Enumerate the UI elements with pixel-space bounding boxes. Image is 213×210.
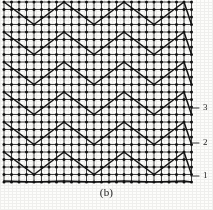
lattice-node bbox=[138, 68, 141, 71]
lattice-node bbox=[85, 143, 88, 146]
lattice-node bbox=[78, 166, 81, 169]
lattice-node bbox=[18, 38, 21, 41]
lattice-node bbox=[18, 166, 21, 169]
lattice-node bbox=[168, 173, 171, 176]
lattice-node bbox=[3, 8, 6, 11]
lattice-node bbox=[93, 16, 96, 19]
grid-lines bbox=[4, 2, 192, 182]
lattice-node bbox=[190, 76, 193, 79]
lattice-node bbox=[190, 1, 193, 4]
lattice-node bbox=[160, 181, 163, 184]
lattice-node bbox=[145, 91, 148, 94]
lattice-node bbox=[33, 76, 36, 79]
lattice-node bbox=[3, 121, 6, 124]
lattice-node bbox=[168, 181, 171, 184]
lattice-node bbox=[123, 1, 126, 4]
lattice-node bbox=[183, 83, 186, 86]
lattice-node bbox=[138, 31, 141, 34]
lattice-node bbox=[93, 121, 96, 124]
lattice-node bbox=[190, 38, 193, 41]
lattice-node bbox=[123, 61, 126, 64]
lattice-node bbox=[115, 151, 118, 154]
lattice-node bbox=[183, 38, 186, 41]
lattice-node bbox=[100, 8, 103, 11]
lattice-node bbox=[55, 113, 58, 116]
lattice-node bbox=[10, 8, 13, 11]
lattice-node bbox=[160, 31, 163, 34]
lattice-node bbox=[130, 121, 133, 124]
lattice-node bbox=[63, 113, 66, 116]
lattice-node bbox=[40, 106, 43, 109]
lattice-node bbox=[123, 136, 126, 139]
lattice-node bbox=[138, 23, 141, 26]
lattice-node bbox=[123, 91, 126, 94]
lattice-node bbox=[18, 113, 21, 116]
lattice-node bbox=[85, 91, 88, 94]
lattice-node bbox=[130, 151, 133, 154]
lattice-node bbox=[183, 1, 186, 4]
lattice-node bbox=[183, 113, 186, 116]
lattice-node bbox=[100, 68, 103, 71]
lattice-node bbox=[18, 31, 21, 34]
lattice-node bbox=[78, 23, 81, 26]
lattice-node bbox=[168, 53, 171, 56]
lattice-node bbox=[175, 83, 178, 86]
annotation-label-3: 3 bbox=[203, 102, 208, 112]
lattice-node bbox=[138, 143, 141, 146]
lattice-node bbox=[70, 166, 73, 169]
lattice-node bbox=[25, 91, 28, 94]
lattice-node bbox=[55, 61, 58, 64]
lattice-node bbox=[168, 8, 171, 11]
lattice-node bbox=[108, 38, 111, 41]
lattice-node bbox=[70, 158, 73, 161]
lattice-node bbox=[153, 53, 156, 56]
lattice-node bbox=[175, 46, 178, 49]
lattice-node bbox=[55, 143, 58, 146]
lattice-node bbox=[123, 113, 126, 116]
lattice-node bbox=[85, 136, 88, 139]
lattice-node bbox=[138, 151, 141, 154]
lattice-node bbox=[63, 173, 66, 176]
lattice-node bbox=[190, 23, 193, 26]
lattice-node bbox=[70, 121, 73, 124]
lattice-node bbox=[145, 143, 148, 146]
lattice-node bbox=[3, 68, 6, 71]
lattice-node bbox=[123, 121, 126, 124]
lattice-node bbox=[130, 61, 133, 64]
lattice-node bbox=[115, 1, 118, 4]
lattice-node bbox=[145, 68, 148, 71]
lattice-node bbox=[93, 106, 96, 109]
lattice-node bbox=[153, 143, 156, 146]
lattice-node bbox=[153, 166, 156, 169]
lattice-node bbox=[160, 83, 163, 86]
lattice-node bbox=[168, 31, 171, 34]
lattice-node bbox=[93, 1, 96, 4]
lattice-node bbox=[85, 121, 88, 124]
lattice-node bbox=[55, 181, 58, 184]
lattice-node bbox=[85, 16, 88, 19]
lattice-node bbox=[175, 1, 178, 4]
lattice-node bbox=[40, 1, 43, 4]
lattice-node bbox=[25, 98, 28, 101]
lattice-node bbox=[48, 113, 51, 116]
lattice-node bbox=[25, 173, 28, 176]
lattice-node bbox=[93, 158, 96, 161]
lattice-node bbox=[3, 98, 6, 101]
lattice-node bbox=[190, 16, 193, 19]
lattice-node bbox=[93, 166, 96, 169]
lattice-node bbox=[25, 121, 28, 124]
lattice-node bbox=[63, 46, 66, 49]
lattice-node bbox=[115, 46, 118, 49]
lattice-node bbox=[10, 158, 13, 161]
lattice-node bbox=[70, 31, 73, 34]
lattice-node bbox=[100, 46, 103, 49]
lattice-node bbox=[78, 151, 81, 154]
lattice-node bbox=[130, 136, 133, 139]
lattice-node bbox=[190, 136, 193, 139]
lattice-node bbox=[183, 128, 186, 131]
lattice-node bbox=[85, 38, 88, 41]
lattice-node bbox=[25, 166, 28, 169]
lattice-node bbox=[93, 143, 96, 146]
lattice-node bbox=[70, 136, 73, 139]
lattice-node bbox=[123, 31, 126, 34]
